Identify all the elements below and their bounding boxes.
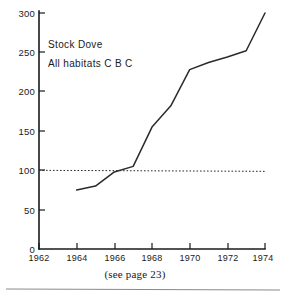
chart-title-annotation: Stock Dove <box>48 39 103 50</box>
x-tick-label-1970: 1970 <box>180 253 201 263</box>
x-axis-tick-labels: 1962 1964 1966 1968 1970 1972 1974 <box>29 253 274 263</box>
y-tick-label-250: 250 <box>19 47 35 58</box>
chart-subtitle-annotation: All habitats C B C <box>48 58 133 69</box>
x-tick-label-1974: 1974 <box>253 253 274 263</box>
chart-figure: 300 250 200 150 100 50 0 1962 1964 1966 … <box>0 0 286 298</box>
x-tick-label-1964: 1964 <box>67 253 88 263</box>
x-tick-label-1968: 1968 <box>142 253 163 263</box>
footer-divider <box>6 289 280 290</box>
y-tick-label-50: 50 <box>24 205 35 216</box>
x-tick-label-1966: 1966 <box>105 253 126 263</box>
y-axis-ticks <box>39 13 45 210</box>
y-tick-label-200: 200 <box>19 86 35 97</box>
x-tick-label-1972: 1972 <box>218 253 239 263</box>
x-tick-label-1962: 1962 <box>29 253 50 263</box>
y-tick-label-150: 150 <box>19 126 35 137</box>
y-axis-tick-labels: 300 250 200 150 100 50 0 <box>19 8 35 255</box>
x-axis-ticks <box>39 243 265 249</box>
y-tick-label-100: 100 <box>19 165 35 176</box>
chart-caption: (see page 23) <box>104 268 165 281</box>
data-series-line <box>77 13 265 190</box>
reference-line-100 <box>39 170 265 171</box>
y-tick-label-300: 300 <box>19 8 35 19</box>
stock-dove-line-chart: 300 250 200 150 100 50 0 1962 1964 1966 … <box>0 0 286 298</box>
